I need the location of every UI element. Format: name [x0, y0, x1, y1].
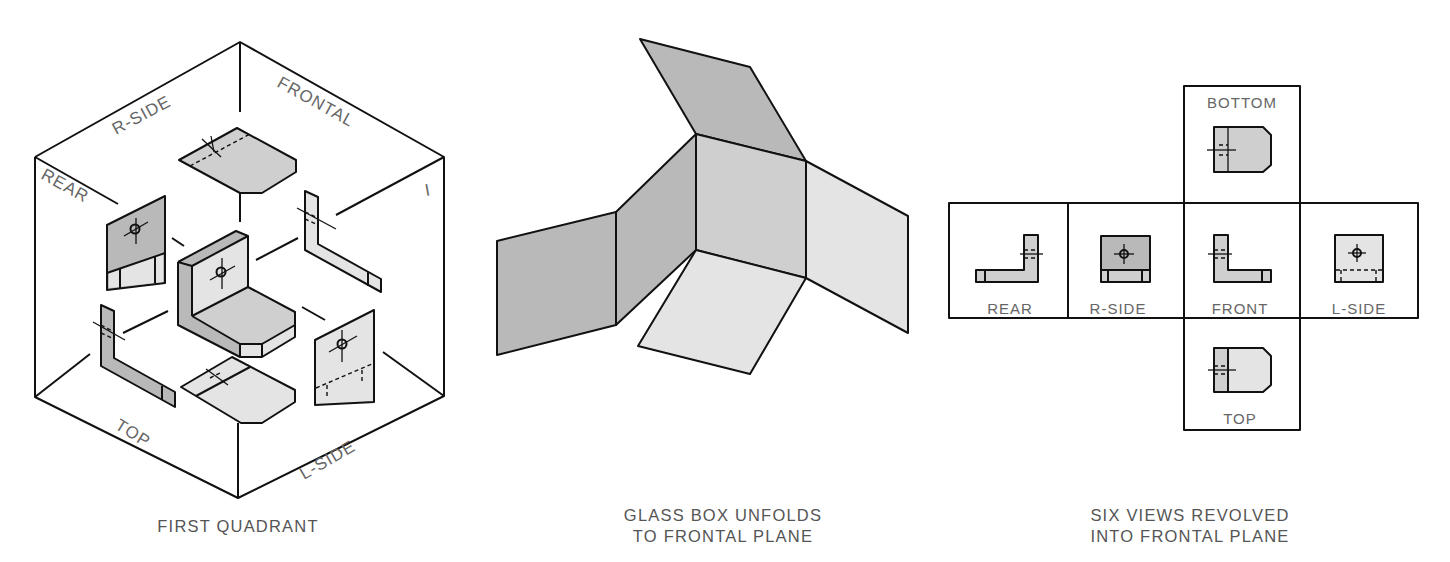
view-front	[1208, 235, 1271, 282]
plane-label-r-side: R-SIDE	[109, 92, 174, 139]
view-label-front: FRONT	[1212, 300, 1269, 317]
bottom-projection	[179, 128, 296, 193]
l-profile-left	[93, 305, 175, 407]
plane-label-l-side: L-SIDE	[297, 437, 359, 484]
view-label-r-side: R-SIDE	[1090, 300, 1147, 317]
view-label-rear: REAR	[987, 300, 1033, 317]
view-label-top: TOP	[1223, 410, 1257, 427]
six-views-panel: BOTTOM REAR R-SIDE	[949, 86, 1418, 545]
figure-canvas: R-SIDE FRONTAL REAR I TOP L-SIDE	[0, 0, 1450, 562]
view-label-l-side: L-SIDE	[1332, 300, 1386, 317]
caption-six-views-line-1: SIX VIEWS REVOLVED	[1090, 506, 1289, 524]
unfolded-plane-right	[806, 161, 908, 333]
plane-label-quadrant-i: I	[423, 180, 432, 200]
caption-glass-box-line-1: GLASS BOX UNFOLDS	[624, 506, 822, 524]
plane-label-rear: REAR	[38, 165, 92, 206]
first-quadrant-panel: R-SIDE FRONTAL REAR I TOP L-SIDE	[35, 42, 444, 535]
rear-projection	[107, 196, 165, 290]
view-bottom	[1207, 127, 1271, 172]
view-top	[1208, 348, 1271, 392]
view-r-side	[1101, 236, 1150, 282]
caption-first-quadrant: FIRST QUADRANT	[157, 517, 318, 535]
view-rear	[976, 235, 1043, 282]
caption-six-views-line-2: INTO FRONTAL PLANE	[1090, 527, 1289, 545]
caption-glass-box-line-2: TO FRONTAL PLANE	[633, 527, 813, 545]
l-side-projection	[315, 310, 374, 405]
unfolded-plane-left-outer	[497, 212, 616, 355]
top-projection	[181, 357, 295, 423]
view-l-side	[1335, 235, 1383, 282]
isometric-object	[178, 231, 295, 357]
l-profile-right	[297, 191, 381, 292]
glass-box-panel: GLASS BOX UNFOLDS TO FRONTAL PLANE	[497, 39, 908, 545]
view-label-bottom: BOTTOM	[1207, 94, 1277, 111]
